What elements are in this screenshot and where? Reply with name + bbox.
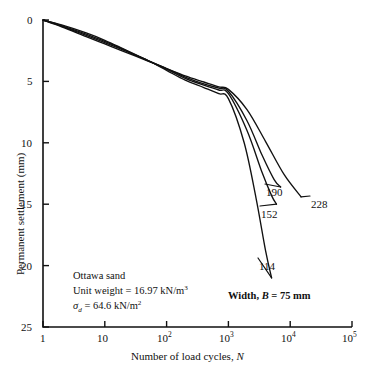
y-tick-label-25: 25: [21, 321, 32, 334]
curve-label-190: 190: [266, 186, 283, 199]
curve-label-152: 152: [261, 208, 278, 221]
annotation-unit-weight: Unit weight = 16.97 kN/m3: [73, 285, 188, 297]
x-tick-exp-100000: 5: [353, 330, 357, 339]
x-tick-label-100: 102: [157, 332, 172, 345]
x-axis-title: Number of load cycles, N: [131, 350, 244, 363]
x-tick-label-100000: 105: [342, 332, 357, 345]
x-axis-title-text: Number of load cycles,: [131, 350, 234, 362]
curve-228: [43, 20, 301, 197]
annotation-width-value: = 75 mm: [271, 290, 310, 301]
annotation-width-symbol: B: [262, 290, 269, 301]
chart-plot-area: [0, 0, 373, 373]
x-tick-base-10000: 10: [281, 332, 292, 344]
annotation-unit-weight-exponent: 3: [184, 284, 188, 292]
curve-152: [43, 20, 276, 204]
x-tick-label-1: 1: [40, 332, 46, 345]
x-tick-base-100: 10: [157, 332, 168, 344]
x-tick-exp-1000: 3: [230, 330, 234, 339]
x-tick-base-100000: 10: [342, 332, 353, 344]
y-axis-ticks: [43, 20, 49, 327]
annotation-stress-exponent: 2: [138, 299, 142, 307]
annotation-stress-subscript: d: [78, 306, 82, 314]
curve-label-114: 114: [259, 260, 275, 273]
data-curves: [43, 20, 301, 278]
curve-label-228: 228: [311, 198, 328, 211]
leader-152: [260, 204, 276, 206]
annotation-unit-weight-value: 16.97 kN/m: [134, 285, 184, 296]
x-axis-title-symbol: N: [236, 350, 243, 362]
x-tick-exp-10000: 4: [292, 330, 296, 339]
y-tick-label-5: 5: [27, 75, 33, 88]
curve-114: [43, 20, 272, 278]
x-tick-label-10: 10: [97, 332, 108, 345]
x-tick-label-10000: 104: [281, 332, 296, 345]
y-tick-label-0: 0: [27, 14, 33, 27]
annotation-material: Ottawa sand: [73, 270, 125, 282]
annotation-stress-value: = 64.6 kN/m: [84, 300, 137, 311]
x-tick-base-1000: 10: [219, 332, 230, 344]
annotation-width-prefix: Width,: [228, 290, 259, 301]
x-tick-base-10: 10: [97, 332, 108, 344]
curve-190: [43, 20, 281, 187]
annotation-unit-weight-label: Unit weight =: [73, 285, 131, 296]
annotation-width: Width, B = 75 mm: [228, 290, 311, 302]
x-tick-label-1000: 103: [219, 332, 234, 345]
y-tick-label-10: 10: [21, 137, 32, 150]
y-axis-title: Permanent settlement (mm): [14, 153, 27, 275]
leader-228: [301, 196, 310, 197]
x-tick-base-1: 1: [40, 332, 46, 344]
annotation-deviator-stress: σd = 64.6 kN/m2: [73, 300, 141, 312]
x-axis-ticks: [43, 321, 352, 327]
x-tick-exp-100: 2: [168, 330, 172, 339]
chart-figure: 0 5 10 15 20 25 Permanent settlement (mm…: [0, 0, 373, 373]
